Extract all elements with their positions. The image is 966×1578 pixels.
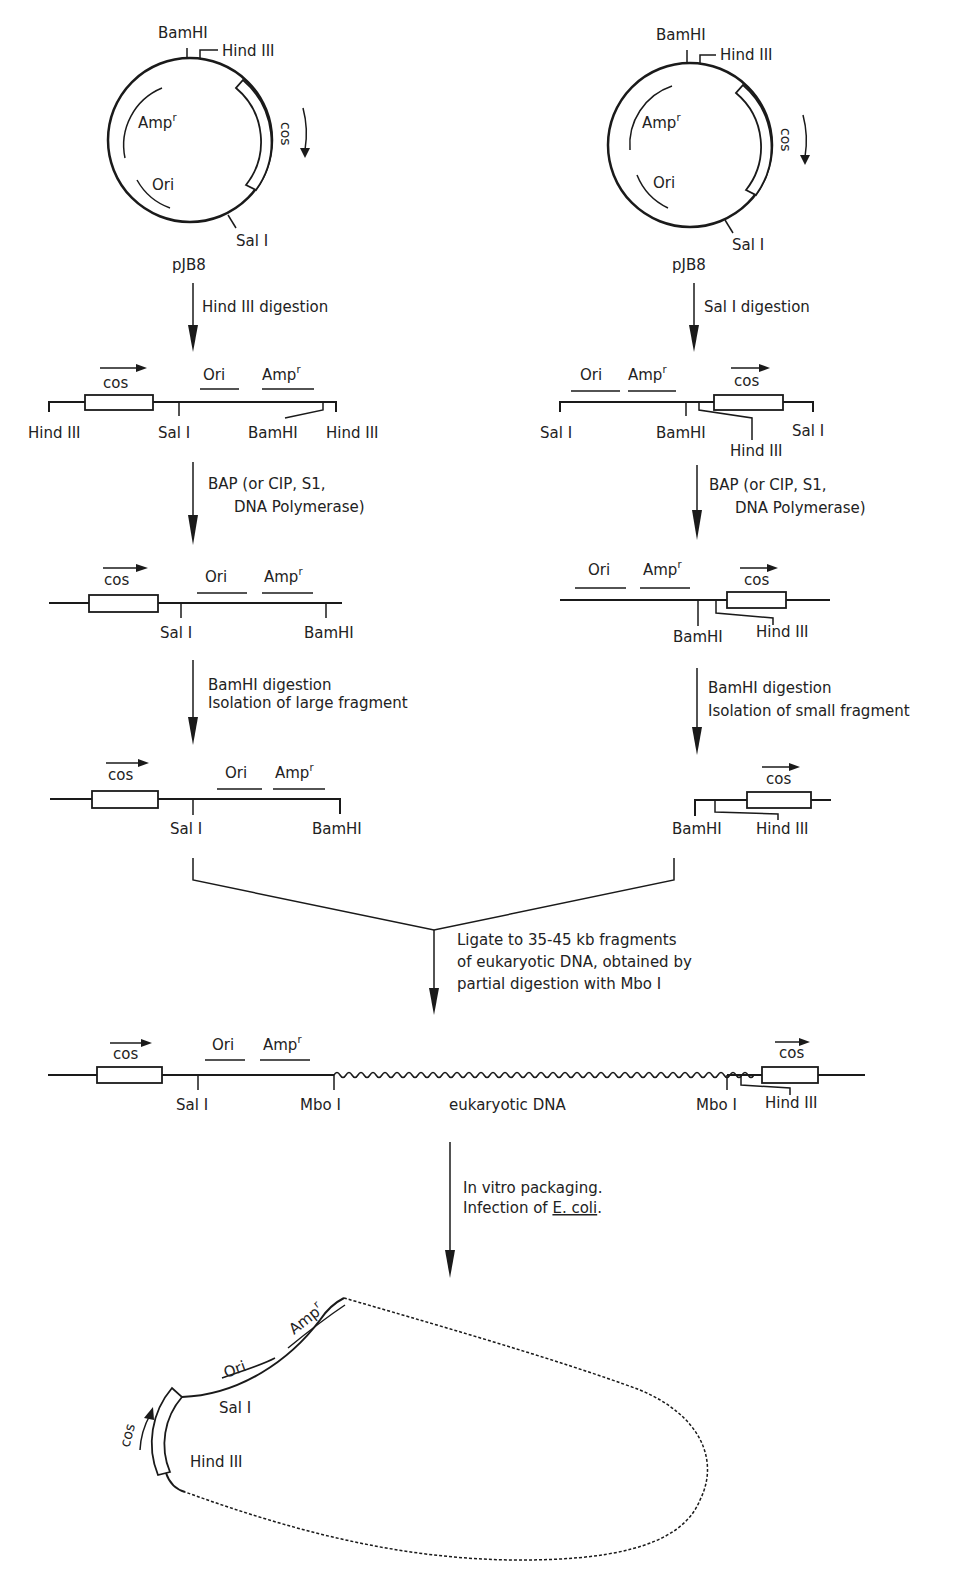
label-site: Sal I — [170, 820, 202, 838]
label-site: BamHI — [673, 628, 723, 646]
label-site: Sal I — [158, 424, 190, 442]
step-label: In vitro packaging. — [463, 1179, 602, 1197]
left-map2: cos Ori Ampr Sal I BamHI — [49, 564, 354, 642]
eukaryotic-dna-loop — [185, 1298, 708, 1560]
label-amp: Ampr — [264, 566, 303, 586]
packaging-arrow: In vitro packaging. Infection of E. coli… — [445, 1142, 602, 1278]
cos-direction-arrow-icon — [303, 108, 306, 150]
left-step1-arrow: Hind III digestion — [188, 283, 328, 352]
label-amp: Ampr — [628, 364, 667, 384]
label-cos: cos — [108, 766, 133, 784]
label-site: Sal I — [176, 1096, 208, 1114]
label-sali: Sal I — [236, 232, 268, 250]
plasmid-left: BamHI Hind III Sal I pJB8 Ampr Ori cos — [108, 24, 310, 274]
hindiii-tick — [700, 55, 716, 63]
arrowhead-icon — [144, 1407, 154, 1420]
label-cos: cos — [103, 374, 128, 392]
step-label: of eukaryotic DNA, obtained by — [457, 953, 692, 971]
label-site: BamHI — [312, 820, 362, 838]
cos-region-box — [152, 1388, 182, 1475]
right-step1-arrow: Sal I digestion — [689, 283, 810, 352]
label-ori: Ori — [205, 568, 227, 586]
label-bamhi: BamHI — [158, 24, 208, 42]
sali-tick — [228, 215, 236, 228]
right-step2-arrow: BAP (or CIP, S1, DNA Polymerase) — [692, 465, 866, 540]
label-site: BamHI — [248, 424, 298, 442]
cos-arrow-icon — [138, 759, 149, 767]
label-ori: Ori — [212, 1036, 234, 1054]
label-site: Hind III — [756, 820, 809, 838]
step-label: Infection of E. coli. — [463, 1199, 602, 1217]
label-amp: Ampr — [642, 112, 681, 132]
step-label: partial digestion with Mbo I — [457, 975, 661, 993]
label-sali: Sal I — [732, 236, 764, 254]
label-hindiii: Hind III — [222, 42, 275, 60]
label-cos: cos — [744, 571, 769, 589]
cos-arrow-icon — [136, 364, 147, 372]
cos-region-box — [736, 85, 771, 195]
merge-connector: Ligate to 35-45 kb fragments of eukaryot… — [193, 858, 692, 1015]
label-site: Hind III — [28, 424, 81, 442]
label-site: Hind III — [765, 1094, 818, 1112]
arrowhead-icon — [429, 988, 439, 1015]
label-cos: cos — [116, 1422, 138, 1449]
left-step3-arrow: BamHI digestion Isolation of large fragm… — [188, 660, 408, 745]
left-map3: cos Ori Ampr Sal I BamHI — [50, 759, 362, 838]
arrowhead-icon — [692, 510, 702, 540]
label-bamhi: BamHI — [656, 26, 706, 44]
left-step2-arrow: BAP (or CIP, S1, DNA Polymerase) — [188, 462, 365, 545]
label-cos: cos — [779, 1044, 804, 1062]
label-amp: Ampr — [263, 1034, 302, 1054]
label-site: Sal I — [792, 422, 824, 440]
step-label: Ligate to 35-45 kb fragments — [457, 931, 677, 949]
cos-region-box — [236, 80, 271, 190]
label-ori: Ori — [580, 366, 602, 384]
label-site: BamHI — [656, 424, 706, 442]
cos-direction-arrow-icon — [803, 115, 806, 157]
label-site: Hind III — [730, 442, 783, 460]
final-cosmid: Ori Ampr cos Sal I Hind III — [116, 1298, 707, 1560]
label-site: Hind III — [190, 1453, 243, 1471]
plasmid-right: BamHI Hind III Sal I pJB8 Ampr Ori cos — [608, 26, 810, 274]
arrowhead-icon — [689, 325, 699, 352]
step-label: Sal I digestion — [704, 298, 810, 316]
plasmid-name: pJB8 — [672, 256, 706, 274]
arrowhead-icon — [300, 148, 310, 158]
label-ori: Ori — [225, 764, 247, 782]
cos-arrow-icon — [136, 564, 148, 572]
right-map3: cos BamHI Hind III — [672, 763, 831, 838]
label-amp: Ampr — [275, 762, 314, 782]
label-site: Hind III — [756, 623, 809, 641]
right-map2: cos Ori Ampr BamHI Hind III — [560, 559, 830, 646]
step-label: DNA Polymerase) — [234, 498, 365, 516]
sali-tick — [725, 220, 733, 233]
plasmid-name: pJB8 — [172, 256, 206, 274]
right-map1: cos Ori Ampr Sal I BamHI Hind III Sal I — [540, 364, 824, 460]
arrowhead-icon — [445, 1250, 455, 1278]
label-amp: Ampr — [284, 1298, 327, 1338]
step-label: DNA Polymerase) — [735, 499, 866, 517]
step-label: BamHI digestion — [208, 676, 332, 694]
label-cos: cos — [104, 571, 129, 589]
label-ori: Ori — [152, 176, 174, 194]
label-ori: Ori — [203, 366, 225, 384]
label-site: Mbo I — [300, 1096, 341, 1114]
label-cos: cos — [113, 1045, 138, 1063]
label-amp: Ampr — [262, 364, 301, 384]
arrowhead-icon — [188, 515, 198, 545]
step-label: BAP (or CIP, S1, — [208, 475, 326, 493]
label-cos: cos — [278, 122, 294, 146]
label-site: BamHI — [672, 820, 722, 838]
step-label: Hind III digestion — [202, 298, 328, 316]
cos-arrow-icon — [759, 364, 770, 372]
arrowhead-icon — [800, 155, 810, 165]
label-hindiii: Hind III — [720, 46, 773, 64]
label-amp: Ampr — [138, 112, 177, 132]
right-step3-arrow: BamHI digestion Isolation of small fragm… — [692, 668, 910, 755]
label-site: Sal I — [219, 1399, 251, 1417]
label-amp: Ampr — [643, 559, 682, 579]
arrowhead-icon — [188, 717, 198, 745]
step-label: BamHI digestion — [708, 679, 832, 697]
label-site: Sal I — [540, 424, 572, 442]
label-site: Hind III — [326, 424, 379, 442]
